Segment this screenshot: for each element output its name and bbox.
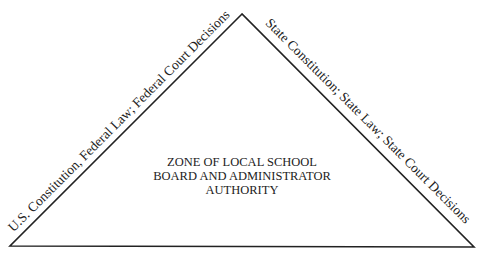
- center-label-line3: AUTHORITY: [206, 183, 279, 197]
- center-label-line1: ZONE OF LOCAL SCHOOL: [167, 155, 317, 169]
- center-label-line2: BOARD AND ADMINISTRATOR: [153, 169, 331, 183]
- triangle-shape: [10, 14, 474, 247]
- left-side-label: U.S. Constitution, Federal Law; Federal …: [5, 7, 233, 235]
- right-side-label: State Constitution; State Law; State Cou…: [263, 15, 474, 226]
- authority-triangle-diagram: U.S. Constitution, Federal Law; Federal …: [0, 0, 482, 257]
